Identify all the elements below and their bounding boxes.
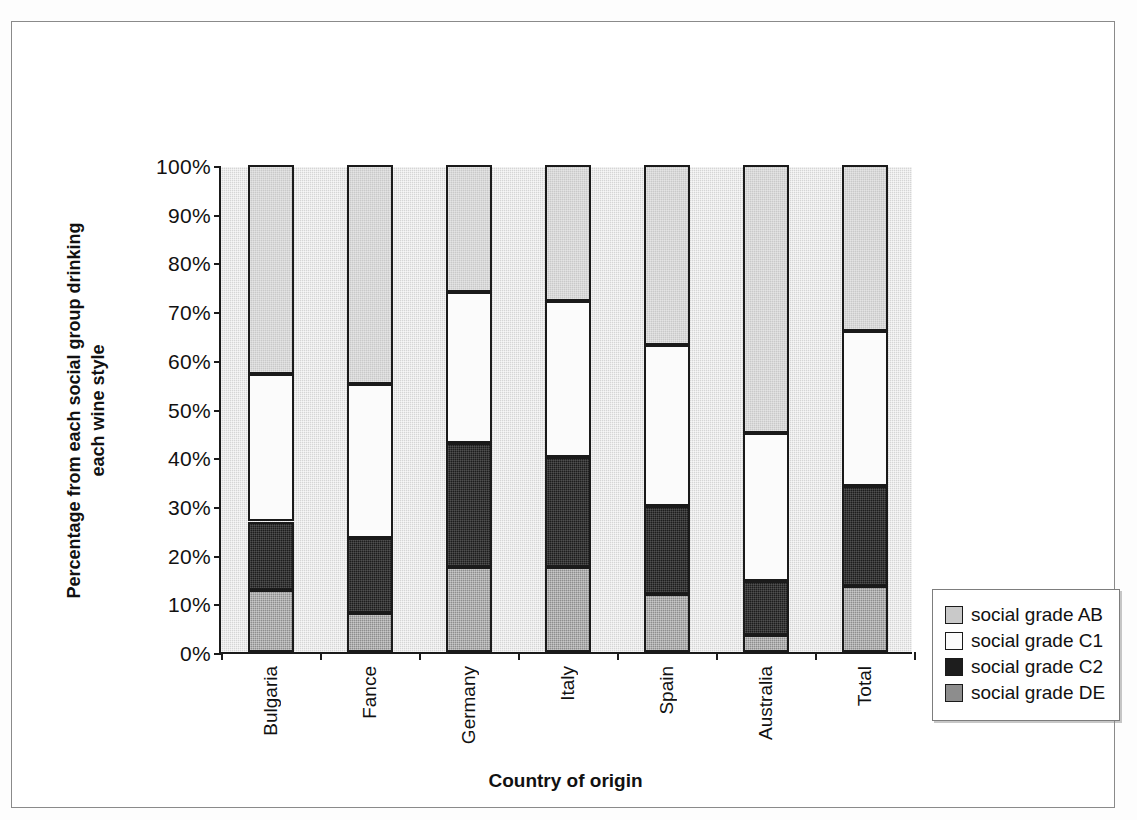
scanned-page: Percentage from each social group drinki… xyxy=(0,0,1137,820)
bar-segment[interactable] xyxy=(842,486,888,586)
x-tick-mark xyxy=(419,652,421,660)
legend-label: social grade C1 xyxy=(971,630,1103,652)
bar-segment[interactable] xyxy=(545,301,591,457)
x-tick-label: Fance xyxy=(359,666,381,719)
legend-item[interactable]: social grade C1 xyxy=(945,630,1105,652)
x-tick-mark xyxy=(320,652,322,660)
bar-segment[interactable] xyxy=(446,443,492,567)
plot-area: 0%10%20%30%40%50%60%70%80%90%100% Bulgar… xyxy=(219,167,912,654)
bar-segment[interactable] xyxy=(644,165,690,345)
y-tick-mark xyxy=(214,166,221,168)
x-tick-label: Spain xyxy=(656,666,678,715)
y-tick-mark xyxy=(214,653,221,655)
y-tick-label: 50% xyxy=(168,399,211,423)
y-tick-label: 80% xyxy=(168,252,211,276)
legend-swatch-icon xyxy=(945,632,963,650)
y-tick-mark xyxy=(214,312,221,314)
y-axis-title-line-2: each wine style xyxy=(88,344,108,476)
x-tick-mark xyxy=(716,652,718,660)
x-tick-label: Italy xyxy=(557,666,579,701)
x-tick-mark xyxy=(518,652,520,660)
chart-frame: Percentage from each social group drinki… xyxy=(11,21,1115,808)
y-tick-label: 30% xyxy=(168,496,211,520)
stacked-bar[interactable] xyxy=(842,165,888,652)
bar-segment[interactable] xyxy=(743,581,789,635)
bar-segment[interactable] xyxy=(743,433,789,582)
legend-swatch-icon xyxy=(945,684,963,702)
stacked-bar[interactable] xyxy=(347,165,393,652)
legend-label: social grade AB xyxy=(971,604,1103,626)
y-tick-mark xyxy=(214,263,221,265)
bar-segment[interactable] xyxy=(743,165,789,433)
bar-segment[interactable] xyxy=(347,538,393,613)
x-tick-label: Bulgaria xyxy=(260,666,282,736)
stacked-bar[interactable] xyxy=(644,165,690,652)
y-tick-label: 70% xyxy=(168,301,211,325)
y-tick-mark xyxy=(214,507,221,509)
bar-segment[interactable] xyxy=(248,590,294,652)
y-tick-mark xyxy=(214,604,221,606)
y-tick-mark xyxy=(214,458,221,460)
legend-item[interactable]: social grade AB xyxy=(945,604,1105,626)
bar-segment[interactable] xyxy=(743,635,789,652)
bar-segment[interactable] xyxy=(842,331,888,487)
x-tick-mark xyxy=(617,652,619,660)
x-tick-mark xyxy=(914,652,916,660)
bar-segment[interactable] xyxy=(248,165,294,374)
bar-segment[interactable] xyxy=(347,384,393,537)
bar-segment[interactable] xyxy=(545,567,591,652)
x-tick-label: Germany xyxy=(458,666,480,744)
y-axis-title-line-1: Percentage from each social group drinki… xyxy=(64,222,84,598)
x-tick-mark xyxy=(815,652,817,660)
y-tick-label: 90% xyxy=(168,204,211,228)
stacked-bar[interactable] xyxy=(248,165,294,652)
chart-legend: social grade ABsocial grade C1social gra… xyxy=(932,589,1120,721)
legend-label: social grade DE xyxy=(971,682,1105,704)
y-tick-label: 0% xyxy=(180,642,211,666)
y-tick-label: 100% xyxy=(156,155,211,179)
legend-swatch-icon xyxy=(945,606,963,624)
bar-segment[interactable] xyxy=(248,374,294,521)
y-axis-title: Percentage from each social group drinki… xyxy=(64,167,108,654)
stacked-bar[interactable] xyxy=(545,165,591,652)
y-tick-label: 40% xyxy=(168,447,211,471)
legend-item[interactable]: social grade DE xyxy=(945,682,1105,704)
legend-item[interactable]: social grade C2 xyxy=(945,656,1105,678)
legend-label: social grade C2 xyxy=(971,656,1103,678)
bar-segment[interactable] xyxy=(248,522,294,590)
y-tick-mark xyxy=(214,361,221,363)
bar-segment[interactable] xyxy=(446,567,492,652)
bar-segment[interactable] xyxy=(644,345,690,506)
bar-segment[interactable] xyxy=(644,506,690,594)
y-tick-mark xyxy=(214,215,221,217)
x-tick-label: Total xyxy=(854,666,876,706)
stacked-bar[interactable] xyxy=(743,165,789,652)
y-tick-label: 20% xyxy=(168,545,211,569)
bar-segment[interactable] xyxy=(545,457,591,567)
y-tick-label: 60% xyxy=(168,350,211,374)
bar-segment[interactable] xyxy=(347,613,393,652)
bar-segment[interactable] xyxy=(644,594,690,652)
bar-segment[interactable] xyxy=(446,165,492,292)
x-tick-mark xyxy=(221,652,223,660)
x-tick-label: Australia xyxy=(755,666,777,740)
bar-segment[interactable] xyxy=(347,165,393,384)
y-tick-mark xyxy=(214,410,221,412)
bar-segment[interactable] xyxy=(446,292,492,443)
bar-segment[interactable] xyxy=(842,165,888,331)
y-tick-mark xyxy=(214,556,221,558)
bar-segment[interactable] xyxy=(842,586,888,652)
y-tick-label: 10% xyxy=(168,593,211,617)
bar-segment[interactable] xyxy=(545,165,591,301)
legend-swatch-icon xyxy=(945,658,963,676)
stacked-bar[interactable] xyxy=(446,165,492,652)
x-axis-title: Country of origin xyxy=(219,770,912,792)
